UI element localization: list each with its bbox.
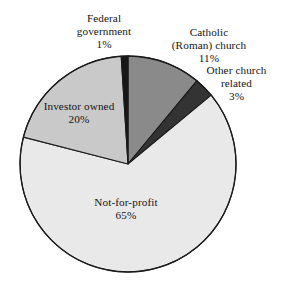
pie-label-not-for-profit-percent: 65% xyxy=(70,209,182,222)
pie-label-other-church-related-line1: Other church xyxy=(186,64,287,77)
pie-label-catholic-roman-church: Catholic (Roman) church 11% xyxy=(154,26,264,66)
pie-label-other-church-related-percent: 3% xyxy=(186,90,287,103)
pie-label-federal-government: Federal government 1% xyxy=(52,12,156,52)
pie-label-investor-owned-line1: Investor owned xyxy=(27,100,131,113)
pie-label-other-church-related: Other church related 3% xyxy=(186,64,287,104)
pie-label-other-church-related-line2: related xyxy=(186,77,287,90)
pie-label-federal-government-line2: government xyxy=(52,25,156,38)
pie-chart: Federal government 1% Catholic (Roman) c… xyxy=(0,0,287,305)
pie-label-not-for-profit-line1: Not-for-profit xyxy=(70,196,182,209)
pie-label-not-for-profit: Not-for-profit 65% xyxy=(70,196,182,222)
pie-label-investor-owned: Investor owned 20% xyxy=(27,100,131,126)
pie-label-catholic-roman-church-line2: (Roman) church xyxy=(154,39,264,52)
pie-label-federal-government-line1: Federal xyxy=(52,12,156,25)
pie-label-federal-government-percent: 1% xyxy=(52,38,156,51)
pie-label-investor-owned-percent: 20% xyxy=(27,113,131,126)
pie-label-catholic-roman-church-line1: Catholic xyxy=(154,26,264,39)
